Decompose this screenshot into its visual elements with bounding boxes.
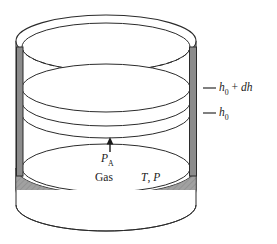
cylinder-wall-right	[190, 47, 197, 176]
label-height-upper: h0 + dh	[219, 82, 252, 96]
piston-disk	[22, 64, 190, 138]
piston-cylinder-figure: h0 + dh h0 PA Gas T, P	[0, 0, 277, 244]
label-state-tp: T, P	[141, 172, 160, 184]
cylinder-wall-left	[17, 47, 24, 176]
label-height-lower: h0	[219, 107, 229, 121]
label-applied-pressure: PA	[101, 153, 114, 167]
label-gas: Gas	[95, 172, 113, 184]
cylinder-diagram	[0, 0, 277, 244]
